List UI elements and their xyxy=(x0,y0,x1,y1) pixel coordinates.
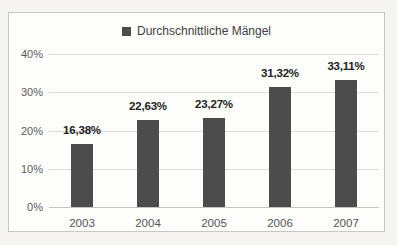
x-axis-tick-2005: 2005 xyxy=(189,216,239,230)
value-label-2006: 31,32% xyxy=(245,66,315,80)
gridline-40% xyxy=(49,54,379,55)
value-label-2004: 22,63% xyxy=(113,99,183,113)
value-label-2007: 33,11% xyxy=(311,59,381,73)
x-axis-tick-2007: 2007 xyxy=(321,216,371,230)
gridline-0% xyxy=(49,207,379,208)
x-axis-tick-2004: 2004 xyxy=(123,216,173,230)
bar-2007 xyxy=(335,80,357,207)
y-axis-tick-40%: 40% xyxy=(11,47,43,61)
value-label-2005: 23,27% xyxy=(179,97,249,111)
value-label-2003: 16,38% xyxy=(47,123,117,137)
x-axis-tick-2006: 2006 xyxy=(255,216,305,230)
scanned-chart-page: { "chart_data": { "type": "bar", "catego… xyxy=(0,0,397,245)
x-axis-tick-2003: 2003 xyxy=(57,216,107,230)
bar-2005 xyxy=(203,118,225,207)
y-axis-tick-10%: 10% xyxy=(11,162,43,176)
y-axis-tick-30%: 30% xyxy=(11,85,43,99)
gridline-30% xyxy=(49,92,379,93)
bar-chart: Durchschnittliche Mängel 0%10%20%30%40%1… xyxy=(8,12,385,232)
bar-2006 xyxy=(269,87,291,207)
bar-2004 xyxy=(137,120,159,207)
y-axis-tick-20%: 20% xyxy=(11,124,43,138)
bar-2003 xyxy=(71,144,93,207)
y-axis-tick-0%: 0% xyxy=(11,200,43,214)
plot-area: 0%10%20%30%40%16,38%200322,63%200423,27%… xyxy=(9,13,384,231)
